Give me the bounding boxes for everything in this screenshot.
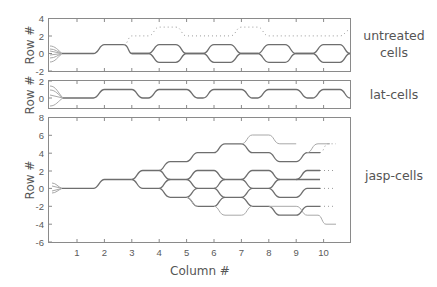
trajectories bbox=[52, 135, 336, 224]
panel-lat-cells: 2 0 Row # lat-cells bbox=[23, 76, 418, 115]
y-tick-label: 0 bbox=[39, 93, 44, 104]
svg-text:8: 8 bbox=[266, 247, 271, 258]
y-tick-label: 8 bbox=[39, 112, 44, 123]
y-axis-label: Row # bbox=[23, 76, 37, 115]
x-axis-label: Column # bbox=[170, 264, 230, 278]
figure: 4 2 0 -2 Row # untreated cells bbox=[0, 0, 437, 287]
panel-label-untreated-line2: cells bbox=[380, 45, 408, 60]
panel-label-untreated-line1: untreated bbox=[363, 28, 425, 43]
svg-text:7: 7 bbox=[239, 247, 244, 258]
x-tick-labels: 1 2 3 4 5 6 7 8 9 10 bbox=[74, 247, 329, 258]
trajectories bbox=[50, 27, 350, 62]
trajectories bbox=[50, 86, 350, 106]
y-tick-label: 0 bbox=[39, 48, 44, 59]
svg-text:6: 6 bbox=[211, 247, 216, 258]
y-tick-label: 4 bbox=[39, 13, 44, 24]
y-tick-label: 2 bbox=[39, 166, 44, 177]
svg-text:5: 5 bbox=[184, 247, 189, 258]
y-tick-label: 6 bbox=[39, 130, 44, 141]
y-tick-label: 0 bbox=[39, 183, 44, 194]
svg-text:2: 2 bbox=[102, 247, 107, 258]
y-tick-label: 2 bbox=[39, 76, 44, 87]
y-tick-label: -2 bbox=[36, 201, 44, 212]
panel-jasp-cells: 8 6 4 2 0 -2 -4 -6 Row # 1 2 3 4 5 6 7 8… bbox=[23, 112, 423, 278]
y-axis-label: Row # bbox=[23, 26, 37, 65]
svg-text:4: 4 bbox=[157, 247, 162, 258]
x-ticks bbox=[77, 81, 324, 109]
plot-frame bbox=[49, 81, 351, 109]
svg-text:3: 3 bbox=[129, 247, 134, 258]
y-tick-label: 4 bbox=[39, 148, 44, 159]
panel-label-lat-cells: lat-cells bbox=[370, 87, 419, 102]
svg-text:9: 9 bbox=[294, 247, 299, 258]
y-axis-label: Row # bbox=[23, 161, 37, 200]
panel-label-jasp-cells: jasp-cells bbox=[364, 168, 423, 183]
svg-text:10: 10 bbox=[318, 247, 329, 258]
y-tick-label: -6 bbox=[36, 237, 44, 248]
plot-frame bbox=[49, 19, 351, 72]
svg-text:1: 1 bbox=[74, 247, 79, 258]
y-ticks bbox=[49, 118, 53, 243]
y-ticks bbox=[49, 19, 53, 72]
y-tick-label: 2 bbox=[39, 31, 44, 42]
panel-untreated: 4 2 0 -2 Row # untreated cells bbox=[23, 13, 425, 77]
y-tick-label: -4 bbox=[36, 219, 44, 230]
